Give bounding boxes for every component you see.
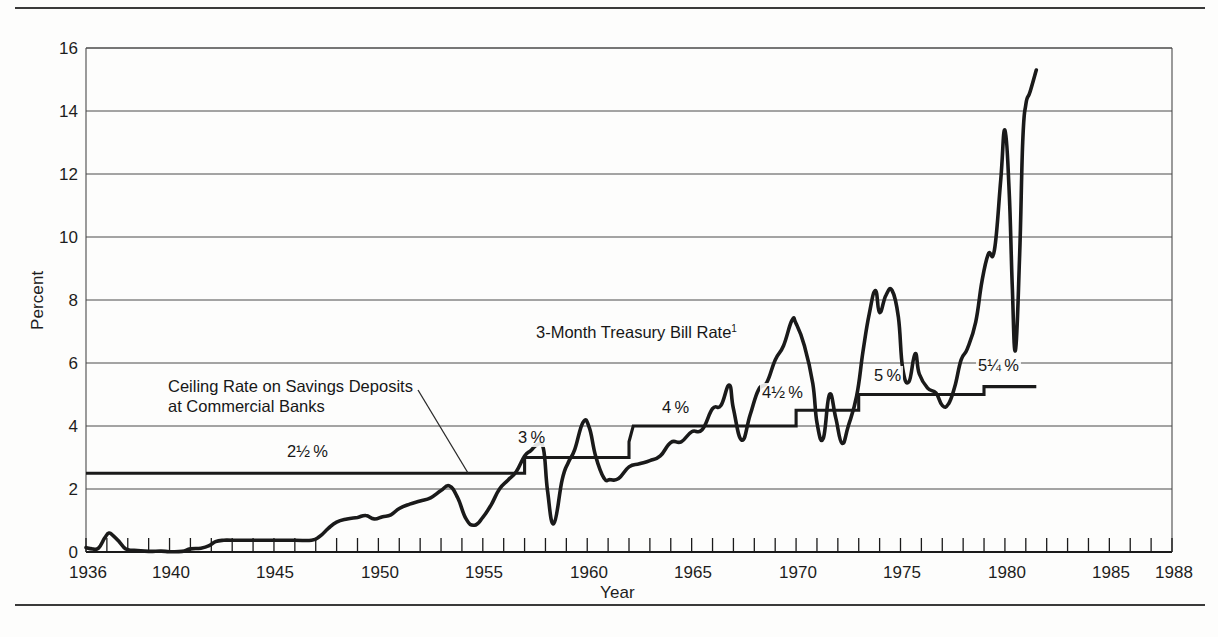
tbill-annotation-label: 3-Month Treasury Bill Rate [536, 323, 731, 341]
tbill-footnote-marker: 1 [731, 323, 737, 334]
gridlines-group [86, 48, 1172, 552]
step-label-5: 5 % [872, 366, 903, 385]
ceiling-annotation-line2: at Commercial Banks [168, 397, 325, 415]
ceiling-annotation-line1: Ceiling Rate on Savings Deposits [168, 377, 413, 395]
treasury-bill-rate-line [86, 70, 1036, 552]
step-label-4-5: 4½ % [760, 383, 805, 402]
tbill-rate-annotation: 3-Month Treasury Bill Rate1 [536, 322, 737, 342]
annotation-leader-line [418, 390, 468, 473]
step-label-2-5: 2½ % [285, 442, 330, 461]
step-label-3: 3 % [516, 428, 547, 447]
step-label-5-25: 5¼ % [976, 356, 1021, 375]
figure-container: Percent Year 0 2 4 6 8 10 12 14 16 1936 … [0, 0, 1218, 637]
ceiling-rate-annotation: Ceiling Rate on Savings Deposits at Comm… [168, 376, 413, 416]
step-label-4: 4 % [660, 398, 691, 417]
chart-plot-area [0, 0, 1218, 637]
